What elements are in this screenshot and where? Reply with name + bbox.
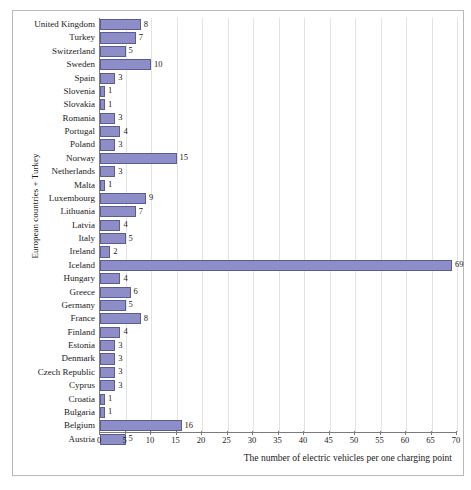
bar-value-label: 7 — [139, 205, 143, 218]
category-label: Norway — [66, 152, 95, 165]
bar[interactable] — [100, 407, 105, 418]
category-label: Estonia — [68, 339, 95, 352]
bar-value-label: 3 — [118, 71, 122, 84]
category-label: Iceland — [69, 259, 95, 272]
bar-value-label: 3 — [118, 138, 122, 151]
bar[interactable] — [100, 233, 126, 244]
bar-row: Lithuania7 — [100, 205, 456, 218]
bar-value-label: 16 — [185, 419, 194, 432]
bar-row: Greece6 — [100, 286, 456, 299]
category-label: Sweden — [67, 58, 96, 71]
gridline-70 — [457, 18, 458, 432]
bar-value-label: 1 — [108, 178, 112, 191]
bar-value-label: 4 — [123, 218, 127, 231]
category-label: Latvia — [72, 219, 95, 232]
chart-figure: European countries + Turkey United Kingd… — [12, 10, 464, 476]
bar-row: Cyprus3 — [100, 379, 456, 392]
bar-value-label: 8 — [144, 312, 148, 325]
category-label: Greece — [70, 286, 95, 299]
bar[interactable] — [100, 313, 141, 324]
x-tick-label-10: 10 — [146, 435, 155, 445]
x-tick-label-40: 40 — [299, 435, 308, 445]
bar-row: Denmark3 — [100, 352, 456, 365]
bar-row: Iceland69 — [100, 259, 456, 272]
bar-row: Bulgaria1 — [100, 406, 456, 419]
x-tick-label-5: 5 — [122, 435, 126, 445]
category-label: Czech Republic — [38, 366, 95, 379]
bar-row: Slovakia1 — [100, 98, 456, 111]
bar[interactable] — [100, 166, 115, 177]
category-label: Hungary — [64, 272, 96, 285]
bar[interactable] — [100, 380, 115, 391]
bar[interactable] — [100, 394, 105, 405]
bar[interactable] — [100, 420, 182, 431]
bar-value-label: 1 — [108, 392, 112, 405]
bar[interactable] — [100, 139, 115, 150]
bar[interactable] — [100, 59, 151, 70]
bar-value-label: 1 — [108, 84, 112, 97]
x-tick-label-25: 25 — [222, 435, 231, 445]
bar[interactable] — [100, 86, 105, 97]
category-label: Italy — [79, 232, 96, 245]
category-label: Switzerland — [52, 45, 95, 58]
bar-value-label: 3 — [118, 111, 122, 124]
bar[interactable] — [100, 32, 136, 43]
bar-value-label: 7 — [139, 31, 143, 44]
bar-value-label: 5 — [129, 44, 133, 57]
bar-value-label: 1 — [108, 405, 112, 418]
category-label: Luxembourg — [49, 192, 95, 205]
bar-row: Czech Republic3 — [100, 366, 456, 379]
bar[interactable] — [100, 153, 177, 164]
bar[interactable] — [100, 99, 105, 110]
bar[interactable] — [100, 180, 105, 191]
y-axis-title: European countries + Turkey — [30, 121, 40, 291]
bar[interactable] — [100, 300, 126, 311]
bar-row: Romania3 — [100, 112, 456, 125]
bar[interactable] — [100, 220, 120, 231]
category-label: Finland — [67, 326, 95, 339]
category-label: Croatia — [69, 393, 96, 406]
bar-row: Luxembourg9 — [100, 192, 456, 205]
bar[interactable] — [100, 19, 141, 30]
bar[interactable] — [100, 206, 136, 217]
x-axis-title: The number of electric vehicles per one … — [99, 453, 456, 463]
category-label: Slovenia — [64, 85, 96, 98]
bar[interactable] — [100, 273, 120, 284]
category-label: Ireland — [70, 245, 95, 258]
bar[interactable] — [100, 353, 115, 364]
x-tick-label-30: 30 — [248, 435, 257, 445]
bar-value-label: 3 — [118, 379, 122, 392]
bar-row: Slovenia1 — [100, 85, 456, 98]
x-tick-label-60: 60 — [401, 435, 410, 445]
bar-row: Finland4 — [100, 326, 456, 339]
x-tick-label-70: 70 — [452, 435, 461, 445]
x-tick-label-65: 65 — [426, 435, 435, 445]
category-label: Germany — [62, 299, 96, 312]
bar-row: Norway15 — [100, 152, 456, 165]
bar[interactable] — [100, 246, 110, 257]
bar[interactable] — [100, 73, 115, 84]
bar[interactable] — [100, 126, 120, 137]
category-label: Spain — [74, 72, 95, 85]
bar[interactable] — [100, 367, 115, 378]
category-label: France — [71, 312, 96, 325]
bar-value-label: 15 — [180, 151, 189, 164]
bar[interactable] — [100, 193, 146, 204]
bar-row: Netherlands3 — [100, 165, 456, 178]
bar-value-label: 5 — [129, 298, 133, 311]
bar[interactable] — [100, 287, 131, 298]
bar-row: United Kingdom8 — [100, 18, 456, 31]
bar[interactable] — [100, 260, 452, 271]
category-label: Malta — [74, 179, 95, 192]
x-tick-label-50: 50 — [350, 435, 359, 445]
bar-value-label: 10 — [154, 58, 163, 71]
bar-row: Malta1 — [100, 179, 456, 192]
bar[interactable] — [100, 113, 115, 124]
x-tick-label-20: 20 — [197, 435, 206, 445]
bar[interactable] — [100, 327, 120, 338]
bar-value-label: 5 — [129, 232, 133, 245]
x-tick-label-0: 0 — [97, 435, 101, 445]
bar[interactable] — [100, 46, 126, 57]
bar[interactable] — [100, 340, 115, 351]
category-label: Belgium — [64, 419, 95, 432]
